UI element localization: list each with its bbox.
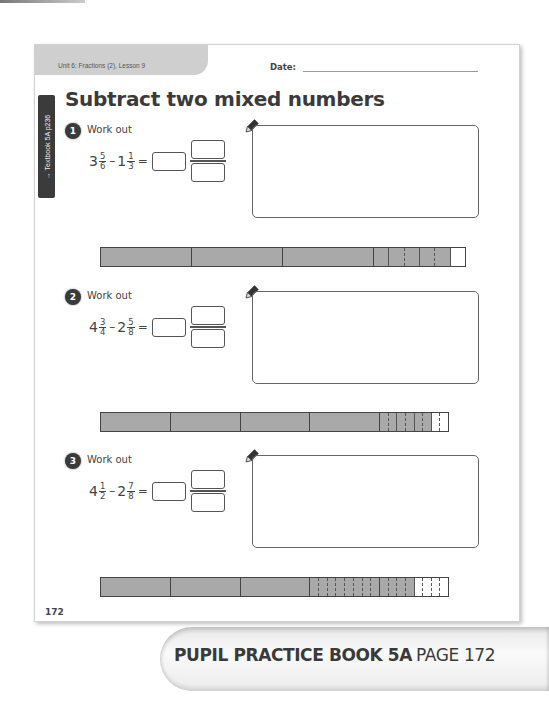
fraction: 56 <box>99 152 106 171</box>
answer-whole-box[interactable] <box>152 482 186 501</box>
answer-numerator-box[interactable] <box>191 140 225 159</box>
working-area[interactable] <box>252 291 479 384</box>
unit-tab: Unit 6: Fractions (2), Lesson 9 <box>35 45 208 75</box>
working-area[interactable] <box>252 125 479 218</box>
bar-model <box>100 412 449 432</box>
expression: 4 34 – 2 58 = <box>89 309 186 345</box>
answer-numerator-box[interactable] <box>191 470 225 489</box>
fraction: 78 <box>127 482 134 501</box>
working-area[interactable] <box>252 455 479 548</box>
answer-whole-box[interactable] <box>152 318 186 337</box>
date-field[interactable] <box>303 71 478 72</box>
top-edge-line <box>0 0 85 3</box>
date-label: Date: <box>270 62 296 72</box>
fraction-bar <box>190 160 226 162</box>
worksheet-page: Unit 6: Fractions (2), Lesson 9 Date: → … <box>34 44 520 622</box>
fraction-bar <box>190 490 226 492</box>
answer-whole-box[interactable] <box>152 152 186 171</box>
bar-model <box>100 577 449 597</box>
expression: 3 56 – 1 13 = <box>89 143 186 179</box>
answer-numerator-box[interactable] <box>191 306 225 325</box>
expression: 4 12 – 2 78 = <box>89 473 186 509</box>
answer-denominator-box[interactable] <box>191 329 225 348</box>
bar-model <box>100 247 466 267</box>
answer-denominator-box[interactable] <box>191 163 225 182</box>
page-number: 172 <box>45 607 64 617</box>
question-label: Work out <box>87 290 132 301</box>
answer-fraction <box>190 306 226 348</box>
fraction: 34 <box>99 318 106 337</box>
question-label: Work out <box>87 454 132 465</box>
page-banner: PUPIL PRACTICE BOOK 5APAGE 172 <box>160 627 549 691</box>
banner-page-number: PAGE 172 <box>416 645 495 665</box>
question-label: Work out <box>87 124 132 135</box>
banner-book-title: PUPIL PRACTICE BOOK 5A <box>174 645 412 665</box>
answer-fraction <box>190 470 226 512</box>
question-number-badge: 3 <box>65 453 81 469</box>
textbook-reference-tab: → Textbook 5A p236 <box>38 95 55 198</box>
answer-fraction <box>190 140 226 182</box>
textbook-reference-label: → Textbook 5A p236 <box>43 114 50 178</box>
fraction: 58 <box>127 318 134 337</box>
answer-denominator-box[interactable] <box>191 493 225 512</box>
fraction: 12 <box>99 482 106 501</box>
question-number-badge: 1 <box>65 123 81 139</box>
question-number-badge: 2 <box>65 289 81 305</box>
page-title: Subtract two mixed numbers <box>65 87 385 111</box>
fraction: 13 <box>127 152 134 171</box>
fraction-bar <box>190 326 226 328</box>
unit-label: Unit 6: Fractions (2), Lesson 9 <box>58 62 145 69</box>
